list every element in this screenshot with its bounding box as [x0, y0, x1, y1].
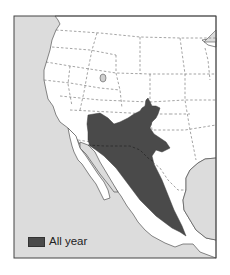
legend-swatch-all-year [28, 237, 45, 247]
legend-label-all-year: All year [49, 236, 87, 248]
range-map [0, 0, 230, 275]
legend: All year [28, 236, 87, 248]
great-salt-lake [100, 74, 106, 82]
